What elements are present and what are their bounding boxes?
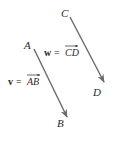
equation-w-rhs: CD	[65, 47, 80, 58]
point-label-d: D	[92, 86, 101, 98]
equation-v-lhs: v	[8, 76, 13, 87]
equation-v-equals: =	[16, 76, 22, 87]
equation-w-lhs: w	[44, 47, 52, 58]
diagram-svg: A B C D v = AB w = CD	[0, 0, 113, 142]
equation-w-equals: =	[54, 47, 60, 58]
equation-w: w = CD	[44, 46, 80, 58]
point-label-b: B	[57, 117, 64, 129]
point-label-a: A	[23, 39, 31, 51]
equation-v: v = AB	[8, 75, 40, 87]
vector-diagram: A B C D v = AB w = CD	[0, 0, 113, 142]
equation-v-rhs: AB	[26, 76, 39, 87]
point-label-c: C	[61, 7, 69, 19]
